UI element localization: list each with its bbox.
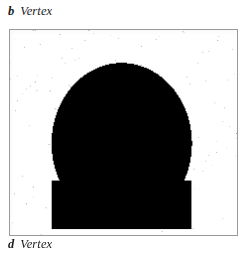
figure-caption-bottom-marker: d [8,237,14,251]
scan-image-frame [9,29,238,236]
figure-caption-bottom-label: Vertex [20,237,52,251]
figure-caption-bottom: dVertex [8,237,52,252]
figure-caption-top-marker: b [8,4,14,18]
figure-caption-top: bVertex [8,4,52,19]
figure-caption-top-label: Vertex [20,4,52,18]
brain-scintigram-image [10,30,237,235]
